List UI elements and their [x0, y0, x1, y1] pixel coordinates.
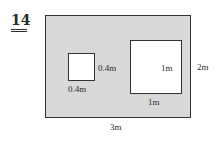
small-square-height-label: 0.4m — [98, 63, 116, 73]
question-number: 14 — [11, 13, 30, 27]
large-square-hole — [130, 40, 182, 94]
outer-height-label: 2m — [197, 62, 209, 72]
small-square-width-label: 0.4m — [68, 84, 86, 94]
large-square-width-label: 1m — [148, 97, 160, 107]
question-number-underline — [11, 31, 27, 32]
question-number-underline — [11, 29, 27, 30]
small-square-hole — [68, 53, 95, 81]
large-square-height-label: 1m — [161, 63, 173, 73]
outer-width-label: 3m — [110, 122, 122, 132]
